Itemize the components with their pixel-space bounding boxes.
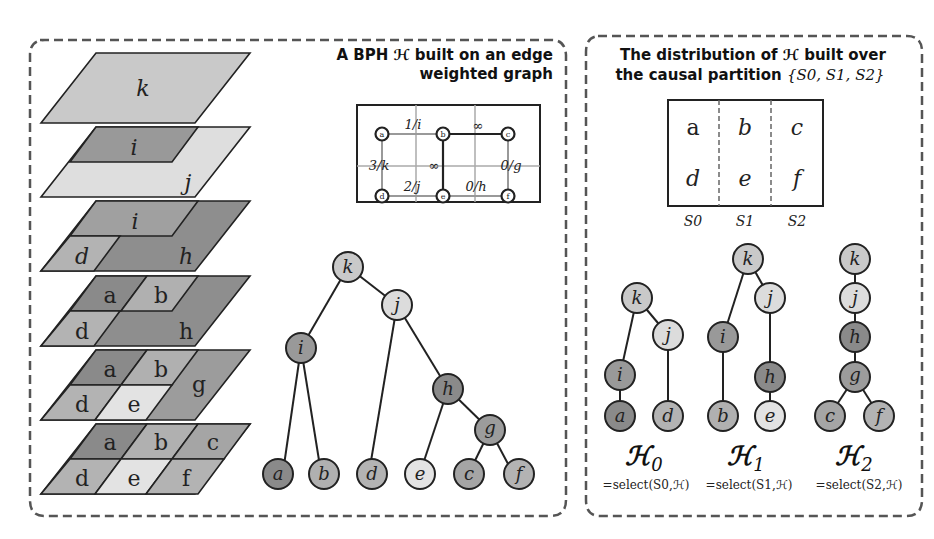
tree-node-k: k xyxy=(333,252,363,282)
svg-text:b: b xyxy=(717,405,729,426)
svg-text:e: e xyxy=(738,166,751,191)
svg-text:b: b xyxy=(154,357,168,382)
svg-text:k: k xyxy=(343,256,354,277)
svg-text:c: c xyxy=(207,430,219,455)
tree-node-g: g xyxy=(475,415,505,445)
svg-text:b: b xyxy=(318,463,330,484)
layer-a-b-d-h: a b d h xyxy=(41,276,250,346)
layer-i-j: i j xyxy=(41,127,250,197)
tree-node-b: b xyxy=(309,459,339,489)
bph-figure: A BPH ℋ built on an edge weighted graph … xyxy=(0,0,934,539)
svg-text:h: h xyxy=(179,319,193,344)
layer-k: k xyxy=(41,53,250,123)
svg-text:g: g xyxy=(849,364,861,385)
svg-text:d: d xyxy=(379,192,384,201)
layer-a-b-d-e-g: a b d e g xyxy=(41,350,250,420)
svg-text:i: i xyxy=(298,337,304,358)
svg-text:k: k xyxy=(743,248,754,269)
tree-node-i: i xyxy=(286,333,316,363)
svg-text:d: d xyxy=(75,319,89,344)
svg-text:k: k xyxy=(632,287,643,308)
svg-text:c: c xyxy=(791,115,803,140)
svg-text:e: e xyxy=(765,405,776,426)
subtree-h2-label: ℋ2 xyxy=(835,441,872,475)
svg-text:i: i xyxy=(131,209,138,234)
svg-text:d: d xyxy=(366,463,378,484)
layer-a-b-c-d-e-f: a b c d e f xyxy=(41,424,250,494)
graph-node-e: e xyxy=(437,190,450,203)
svg-text:g: g xyxy=(484,417,496,438)
partition-table: a b c d e f S0 S1 S2 xyxy=(668,100,823,229)
svg-text:c: c xyxy=(825,405,835,426)
edge-label-ef: 0/h xyxy=(465,179,486,194)
column-label-s2: S2 xyxy=(788,213,807,229)
edge-label-de: 2/j xyxy=(403,179,421,194)
svg-text:d: d xyxy=(662,405,674,426)
edge-label-ab: 1/i xyxy=(405,117,422,132)
column-label-s1: S1 xyxy=(736,213,755,229)
column-label-s0: S0 xyxy=(684,213,703,229)
svg-text:h: h xyxy=(849,326,861,347)
tree-node-e: e xyxy=(405,459,435,489)
subtree-h0-label: ℋ0 xyxy=(625,441,662,475)
edge-weighted-graph: a b c d e f 1/i ∞ 3/k ∞ 0/g 2/j 0/h xyxy=(357,105,540,203)
svg-text:e: e xyxy=(127,466,140,491)
subtree-labels: ℋ0 ℋ1 ℋ2 =select(S0,ℋ) =select(S1,ℋ) =se… xyxy=(603,441,903,492)
subtree-h2-caption: =select(S2,ℋ) xyxy=(816,478,903,492)
subtree-h1-caption: =select(S1,ℋ) xyxy=(706,478,793,492)
tree-node-d: d xyxy=(357,459,387,489)
graph-node-a: a xyxy=(376,128,389,141)
svg-text:b: b xyxy=(738,115,752,140)
edge-label-be: ∞ xyxy=(429,158,440,173)
graph-node-d: d xyxy=(376,190,389,203)
graph-node-b: b xyxy=(437,128,450,141)
svg-text:a: a xyxy=(273,463,284,484)
svg-text:a: a xyxy=(103,283,116,308)
svg-text:g: g xyxy=(192,372,206,397)
subtree-h0-caption: =select(S0,ℋ) xyxy=(603,478,690,492)
svg-text:b: b xyxy=(154,430,168,455)
edge-label-ad: 3/k xyxy=(369,158,390,173)
edge-label-bc: ∞ xyxy=(473,118,484,133)
svg-text:i: i xyxy=(617,364,623,385)
edge-label-cf: 0/g xyxy=(501,158,522,173)
svg-text:h: h xyxy=(179,244,193,269)
svg-text:h: h xyxy=(764,366,776,387)
right-panel-title-line2: the causal partition {S0, S1, S2} xyxy=(615,66,884,84)
svg-text:a: a xyxy=(103,430,116,455)
svg-text:a: a xyxy=(615,405,626,426)
svg-text:c: c xyxy=(464,463,474,484)
svg-text:a: a xyxy=(103,357,116,382)
right-panel-title-line1: The distribution of ℋ built over xyxy=(620,46,886,64)
tree-node-j: j xyxy=(382,290,412,320)
svg-text:b: b xyxy=(154,283,168,308)
left-panel-title-line1: A BPH ℋ built on an edge xyxy=(337,46,554,64)
tree-node-h: h xyxy=(433,374,463,404)
subtree-h0: k j i a d xyxy=(605,283,683,431)
subtree-h2: k j h g c f xyxy=(815,244,894,431)
tree-node-c: c xyxy=(454,459,484,489)
svg-text:a: a xyxy=(686,115,699,140)
svg-text:k: k xyxy=(850,248,861,269)
subtree-h1: k j i h b e xyxy=(708,244,785,431)
svg-text:d: d xyxy=(75,466,89,491)
svg-text:k: k xyxy=(136,76,149,101)
layer-i-d-h: i d h xyxy=(41,201,250,271)
svg-text:a: a xyxy=(380,130,385,139)
svg-text:i: i xyxy=(720,326,726,347)
graph-node-f: f xyxy=(502,190,515,203)
svg-text:d: d xyxy=(686,166,700,191)
subtree-h1-label: ℋ1 xyxy=(727,441,764,475)
svg-text:d: d xyxy=(75,392,89,417)
svg-text:e: e xyxy=(441,192,446,201)
svg-text:h: h xyxy=(442,378,454,399)
svg-text:i: i xyxy=(130,135,137,160)
svg-text:c: c xyxy=(506,130,511,139)
graph-node-c: c xyxy=(502,128,515,141)
left-panel-title-line2: weighted graph xyxy=(419,65,553,83)
svg-text:b: b xyxy=(440,130,445,139)
svg-text:d: d xyxy=(75,244,89,269)
tree-node-f: f xyxy=(504,459,534,489)
tree-node-a: a xyxy=(263,459,293,489)
svg-text:e: e xyxy=(415,463,426,484)
